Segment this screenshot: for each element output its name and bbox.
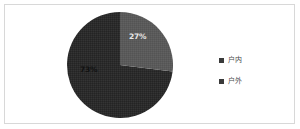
chart-legend: 户内 户外 — [219, 50, 289, 92]
legend-item-outdoor: 户外 — [219, 71, 289, 92]
pie-slice-indoor — [120, 12, 173, 72]
slice-label-outdoor: 73% — [80, 66, 97, 74]
legend-swatch-icon — [219, 79, 224, 84]
plot-area: 27% 73% 户内 户外 — [0, 0, 300, 129]
legend-label-outdoor: 户外 — [228, 78, 242, 85]
slice-label-indoor: 27% — [129, 33, 146, 41]
pie-chart-image: 27% 73% 户内 户外 — [0, 0, 300, 129]
legend-swatch-icon — [219, 58, 224, 63]
legend-label-indoor: 户内 — [228, 57, 242, 64]
legend-item-indoor: 户内 — [219, 50, 289, 71]
